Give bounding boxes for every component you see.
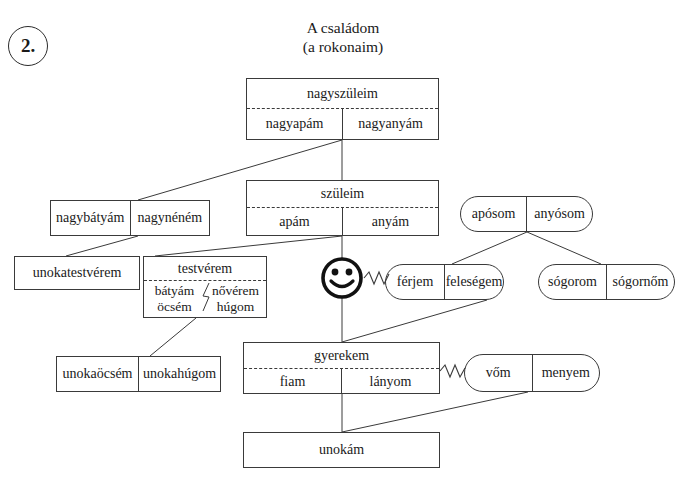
node-siblings-in-law[interactable]: sógorom sógornőm <box>538 264 675 300</box>
younger-sister-label: húgom <box>217 299 255 315</box>
node-cousin[interactable]: unokatestvérem <box>14 256 140 290</box>
line-parents-in-law-to-siblings-in-law <box>527 232 601 264</box>
cousin-label: unokatestvérem <box>15 257 139 289</box>
node-child[interactable]: gyerekem fiam lányom <box>243 342 440 394</box>
niece-label: unokahúgom <box>138 357 220 391</box>
page-title: A családom (a rokonaim) <box>0 18 686 56</box>
aunt-label: nagynéném <box>130 201 210 235</box>
node-uncle-aunt[interactable]: nagybátyám nagynéném <box>50 200 210 236</box>
connector-lines <box>0 0 686 485</box>
parents-mother: anyám <box>342 208 438 235</box>
husband-label: férjem <box>386 265 444 299</box>
node-parents[interactable]: szüleim apám anyám <box>246 180 439 236</box>
sibling-header: testvérem <box>144 257 266 281</box>
mother-in-law-label: anyósom <box>526 197 592 231</box>
smiley-face-icon <box>310 256 374 302</box>
zigzag-child-child-in-law <box>440 365 465 377</box>
grandparents-mother: nagyanyám <box>342 109 438 139</box>
node-child-in-law[interactable]: vőm menyem <box>464 354 600 392</box>
node-grandparents[interactable]: nagyszüleim nagyapám nagyanyám <box>246 78 439 140</box>
sister-in-law-label: sógornőm <box>606 265 674 299</box>
title-line-2: (a rokonaim) <box>0 37 686 56</box>
sibling-sisters: nővérem húgom <box>205 281 266 317</box>
family-tree-diagram: 2. A családom (a rokonaim) <box>0 0 686 485</box>
daughter-in-law-label: menyem <box>532 355 600 391</box>
uncle-label: nagybátyám <box>51 201 130 235</box>
parents-header: szüleim <box>247 181 438 208</box>
son-label: fiam <box>244 369 341 394</box>
grandparents-header: nagyszüleim <box>247 79 438 109</box>
wife-label: feleségem <box>444 265 503 299</box>
node-sibling[interactable]: testvérem bátyám öcsém nővérem húgom <box>143 256 267 318</box>
son-in-law-label: vőm <box>465 355 532 391</box>
node-nephew-niece[interactable]: unokaöcsém unokahúgom <box>56 356 221 392</box>
brother-in-law-label: sógorom <box>539 265 606 299</box>
nephew-label: unokaöcsém <box>57 357 138 391</box>
line-child-in-law-to-grandchild <box>342 392 528 432</box>
line-parents-to-sibling <box>155 236 342 256</box>
grandparents-father: nagyapám <box>247 109 342 139</box>
older-sister-label: nővérem <box>212 283 259 299</box>
line-sibling-to-nephew-niece <box>150 318 196 356</box>
child-header: gyerekem <box>244 343 439 369</box>
parents-father: apám <box>247 208 342 235</box>
line-spouse-to-child <box>342 300 487 342</box>
older-brother-label: bátyám <box>155 283 195 299</box>
node-grandchild[interactable]: unokám <box>243 432 440 468</box>
node-spouse[interactable]: férjem feleségem <box>385 264 504 300</box>
line-parents-in-law-to-spouse <box>452 232 527 264</box>
grandchild-label: unokám <box>244 433 439 467</box>
daughter-label: lányom <box>341 369 439 394</box>
line-uncle-aunt-to-cousin <box>66 236 138 256</box>
node-self[interactable] <box>310 256 374 300</box>
father-in-law-label: apósom <box>461 197 526 231</box>
younger-brother-label: öcsém <box>157 299 192 315</box>
title-line-1: A családom <box>307 19 380 36</box>
sibling-brothers: bátyám öcsém <box>144 281 205 317</box>
node-parents-in-law[interactable]: apósom anyósom <box>460 196 593 232</box>
